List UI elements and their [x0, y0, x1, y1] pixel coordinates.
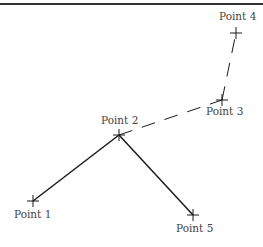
point-5: Point 5 [176, 209, 213, 234]
point-1: Point 1 [14, 195, 51, 220]
point-label: Point 2 [101, 114, 138, 126]
solid-segment [33, 135, 119, 201]
dashed-segment [222, 33, 236, 100]
point-label: Point 4 [219, 10, 257, 22]
point-label: Point 1 [14, 208, 51, 220]
point-label: Point 5 [176, 222, 213, 234]
point-label: Point 3 [206, 105, 243, 117]
diagram-canvas: Point 1Point 2Point 3Point 4Point 5 [0, 0, 263, 247]
point-2: Point 2 [101, 114, 138, 141]
point-4: Point 4 [219, 10, 257, 39]
solid-segment [119, 135, 193, 215]
point-3: Point 3 [206, 94, 243, 117]
